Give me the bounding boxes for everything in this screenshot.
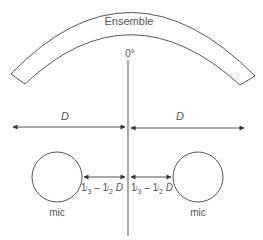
svg-text:1/3 – 1/2 D: 1/3 – 1/2 D — [81, 182, 123, 195]
ensemble-label: Ensemble — [105, 15, 154, 27]
left-mic-label: mic — [49, 207, 65, 218]
stereo-mic-placement-diagram: Ensemble 0° D D mic mic 1/3 – 1/2 D 1/3 … — [0, 0, 263, 240]
left-distance-label: D — [61, 110, 69, 122]
right-mic-label: mic — [190, 207, 206, 218]
right-mic-circle — [173, 152, 223, 202]
left-mic-circle — [32, 152, 82, 202]
svg-text:1/3 – 1/2 D: 1/3 – 1/2 D — [131, 182, 173, 195]
left-spacing-label: 1/3 – 1/2 D — [81, 182, 123, 195]
right-distance-label: D — [176, 110, 184, 122]
zero-degree-label: 0° — [125, 48, 135, 59]
right-spacing-label: 1/3 – 1/2 D — [131, 182, 173, 195]
